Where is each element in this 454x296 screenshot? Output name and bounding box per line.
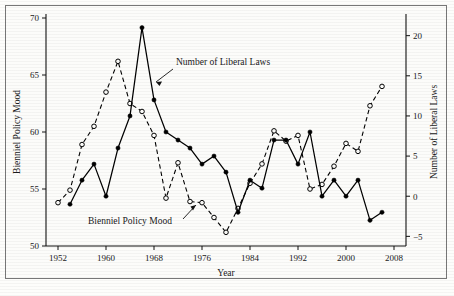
data-point — [116, 146, 120, 150]
data-point — [296, 133, 301, 138]
data-point — [212, 215, 217, 220]
annotation-liberal-laws: Number of Liberal Laws — [176, 57, 270, 67]
y-tick-label: 55 — [30, 184, 40, 194]
x-tick-label: 1968 — [145, 253, 164, 263]
data-point — [104, 194, 108, 198]
y-axis-title: Bienniel Policy Mood — [12, 90, 22, 174]
chart-canvas: 5055606570−50510152019521960196819761984… — [0, 0, 454, 296]
data-point — [200, 200, 205, 205]
data-point — [92, 124, 97, 129]
data-point — [236, 210, 240, 214]
data-point — [104, 90, 109, 95]
data-point — [332, 178, 336, 182]
x-tick-label: 1960 — [97, 253, 116, 263]
x-tick-label: 1976 — [193, 253, 212, 263]
annotation-leader-liberal-laws — [156, 69, 173, 82]
data-point — [164, 130, 168, 134]
y2-tick-label: 10 — [413, 111, 423, 121]
data-point — [56, 200, 61, 205]
data-point — [248, 178, 252, 182]
data-point — [164, 196, 169, 201]
y2-tick-label: 20 — [413, 31, 423, 41]
data-point — [356, 178, 360, 182]
x-tick-label: 1952 — [49, 253, 67, 263]
y2-tick-label: 5 — [413, 151, 418, 161]
data-point — [296, 162, 300, 166]
series-line-policy-mood — [58, 61, 382, 232]
data-point — [152, 98, 156, 102]
data-point — [368, 103, 373, 108]
data-point — [176, 138, 180, 142]
data-point — [380, 84, 385, 89]
y-tick-label: 50 — [30, 241, 40, 251]
data-point — [116, 59, 121, 64]
data-point — [344, 194, 348, 198]
data-point — [260, 162, 265, 167]
data-point — [368, 218, 372, 222]
data-point — [344, 141, 349, 146]
data-point — [80, 142, 85, 147]
y2-tick-label: −5 — [413, 232, 423, 242]
data-point — [224, 170, 228, 174]
y-tick-label: 70 — [30, 13, 40, 23]
data-point — [188, 146, 192, 150]
data-point — [80, 178, 84, 182]
data-point — [152, 133, 157, 138]
data-point — [212, 154, 216, 158]
data-point — [284, 138, 288, 142]
data-point — [356, 149, 361, 154]
line-chart: 5055606570−50510152019521960196819761984… — [0, 0, 454, 296]
data-point — [260, 186, 264, 190]
x-tick-label: 2008 — [385, 253, 404, 263]
y2-tick-label: 0 — [413, 192, 418, 202]
data-point — [128, 114, 132, 118]
y2-tick-label: 15 — [413, 71, 423, 81]
data-point — [308, 187, 313, 192]
annotation-policy-mood: Bienniel Policy Mood — [88, 216, 172, 226]
data-point — [380, 210, 384, 214]
data-point — [188, 199, 193, 204]
annotation-arrowhead-liberal-laws — [156, 82, 162, 87]
y-tick-label: 60 — [30, 127, 40, 137]
x-tick-label: 2000 — [337, 253, 356, 263]
data-point — [272, 129, 277, 134]
x-tick-label: 1984 — [241, 253, 260, 263]
y2-axis-title: Number of Liberal Laws — [429, 85, 439, 179]
data-point — [92, 162, 96, 166]
data-point — [140, 26, 144, 30]
data-point — [200, 162, 204, 166]
data-point — [332, 164, 337, 169]
y-tick-label: 65 — [30, 70, 40, 80]
x-axis-title: Year — [217, 268, 235, 278]
data-point — [308, 130, 312, 134]
data-point — [176, 160, 181, 165]
data-point — [140, 109, 145, 114]
figure-root: 5055606570−50510152019521960196819761984… — [0, 0, 454, 296]
data-point — [68, 188, 73, 193]
data-point — [224, 230, 229, 235]
data-point — [272, 138, 276, 142]
x-tick-label: 1992 — [289, 253, 307, 263]
data-point — [68, 202, 72, 206]
data-point — [320, 194, 324, 198]
